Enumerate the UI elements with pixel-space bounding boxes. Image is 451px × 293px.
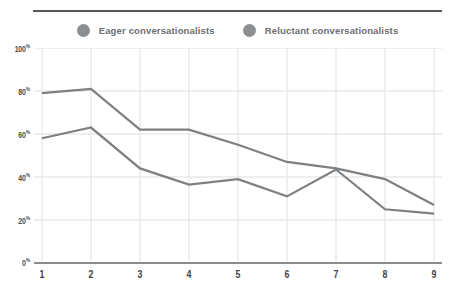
x-tick-6: 6 [279, 268, 295, 280]
x-tick-3: 3 [132, 268, 148, 280]
y-tick-60: 60% [5, 130, 30, 140]
legend-label-eager: Eager conversationalists [99, 25, 215, 36]
legend-marker-circle-icon [243, 24, 256, 37]
y-tick-20: 20% [5, 216, 30, 226]
y-tick-40: 40% [5, 173, 30, 183]
x-axis-line [34, 262, 442, 264]
x-tick-9: 9 [426, 268, 442, 280]
legend-label-reluctant: Reluctant conversationalists [265, 25, 399, 36]
vertical-gridlines [42, 48, 434, 263]
y-axis-labels: 100% 80% 60% 40% 20% 0% [0, 48, 30, 263]
x-tick-7: 7 [328, 268, 344, 280]
x-tick-8: 8 [377, 268, 393, 280]
legend-item-eager[interactable]: Eager conversationalists [77, 24, 215, 37]
x-tick-4: 4 [181, 268, 197, 280]
y-tick-80: 80% [5, 87, 30, 97]
line-chart: Eager conversationalists Reluctant conve… [0, 0, 451, 293]
y-tick-0: 0% [5, 258, 30, 268]
legend-marker-circle-icon [77, 24, 90, 37]
header-rule [33, 10, 442, 12]
x-tick-5: 5 [230, 268, 246, 280]
x-tick-2: 2 [83, 268, 99, 280]
y-tick-100: 100% [5, 44, 30, 54]
legend-item-reluctant[interactable]: Reluctant conversationalists [243, 24, 399, 37]
x-tick-1: 1 [34, 268, 50, 280]
x-axis-labels: 123456789 [34, 268, 442, 286]
chart-legend: Eager conversationalists Reluctant conve… [33, 19, 442, 41]
plot-area [34, 48, 442, 263]
plot-svg [34, 48, 442, 263]
